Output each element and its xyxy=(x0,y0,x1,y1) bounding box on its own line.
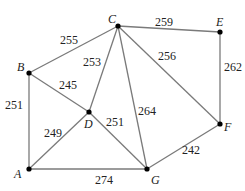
edge-weight-label: 255 xyxy=(60,33,78,47)
node-label: A xyxy=(13,167,22,181)
edge-weight-label: 253 xyxy=(83,55,101,69)
edge-C-G xyxy=(118,26,147,169)
edge-weight-label: 264 xyxy=(138,104,156,118)
edge-weight-label: 251 xyxy=(106,115,124,129)
weighted-graph: 255259262256253264245251249251274242ABCD… xyxy=(0,0,245,191)
node-label: C xyxy=(108,12,117,26)
node-C xyxy=(115,23,120,28)
edge-A-D xyxy=(29,112,89,169)
edge-weight-label: 249 xyxy=(44,126,62,140)
node-G xyxy=(144,166,149,171)
edge-weight-label: 242 xyxy=(182,143,200,157)
edge-C-F xyxy=(118,26,220,124)
edge-weight-label: 245 xyxy=(59,78,77,92)
node-D xyxy=(86,109,91,114)
node-E xyxy=(217,29,222,34)
node-label: G xyxy=(151,173,160,187)
edge-weight-label: 251 xyxy=(5,98,23,112)
edge-weight-label: 259 xyxy=(155,15,173,29)
node-label: D xyxy=(83,117,93,131)
labels-group: 255259262256253264245251249251274242ABCD… xyxy=(5,12,242,187)
node-label: B xyxy=(17,60,25,74)
edge-weight-label: 262 xyxy=(224,60,242,74)
edge-weight-label: 256 xyxy=(158,49,176,63)
node-A xyxy=(26,166,31,171)
node-label: F xyxy=(223,120,232,134)
edge-weight-label: 274 xyxy=(95,173,113,187)
node-F xyxy=(217,121,222,126)
node-B xyxy=(26,70,31,75)
node-label: E xyxy=(215,15,224,29)
